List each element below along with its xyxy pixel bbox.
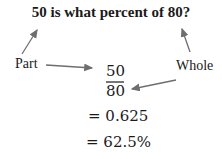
whole-label: Whole [176,58,213,74]
step-decimal: = 0.625 [88,107,148,125]
step-percent: = 62.5% [86,133,151,151]
arrow-whole-to-denominator [132,80,176,89]
arrow-whole-to-80 [182,29,190,52]
arrow-part-to-50 [22,30,37,54]
part-label: Part [15,56,38,72]
arrow-part-to-fraction [46,65,92,68]
fraction-numerator: 50 [106,62,125,80]
fraction-denominator: 80 [106,82,125,100]
